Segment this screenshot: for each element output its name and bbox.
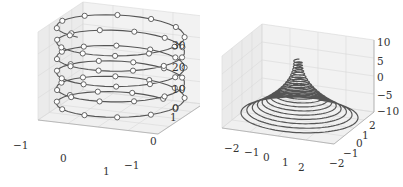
x-tick-label: −1: [244, 147, 259, 158]
x-tick-label: −2: [224, 143, 239, 154]
y-tick-label: −1: [343, 148, 358, 159]
x-tick-label: 1: [282, 157, 289, 168]
y-tick-label: −2: [329, 158, 344, 169]
y-tick-label: 1: [362, 130, 369, 141]
y-tick-label: −1: [124, 160, 139, 171]
x-tick-label: 2: [298, 162, 305, 173]
y-tick-label: 2: [369, 120, 376, 131]
z-tick-label: 10: [172, 84, 185, 95]
helix-3d-plot: −101−1010102030: [0, 0, 200, 187]
z-tick-label: 0: [172, 103, 179, 114]
z-tick-label: 5: [377, 56, 384, 67]
x-tick-label: 0: [60, 153, 67, 164]
x-tick-label: 1: [103, 166, 110, 177]
z-tick-label: 10: [377, 37, 390, 48]
z-tick-label: −5: [377, 90, 392, 101]
z-tick-label: −10: [377, 106, 399, 117]
z-tick-label: 30: [172, 40, 185, 51]
conical-spiral-plot-canvas: [200, 0, 403, 187]
z-tick-label: 20: [172, 62, 185, 73]
x-tick-label: 0: [263, 152, 270, 163]
x-tick-label: −1: [13, 140, 28, 151]
y-tick-label: 0: [150, 136, 157, 147]
conical-spiral-3d-plot: −2−1012−2−10121050−5−10: [200, 0, 403, 187]
z-tick-label: 0: [377, 72, 384, 83]
helix-plot-canvas: [0, 0, 200, 187]
